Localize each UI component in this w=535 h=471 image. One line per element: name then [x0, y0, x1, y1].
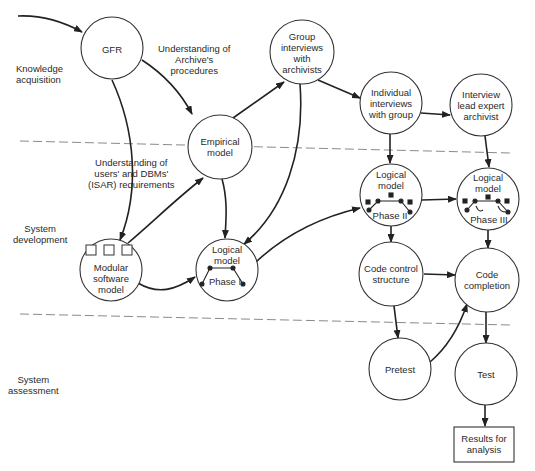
- node-text-group: Group interviews with archivists: [281, 31, 323, 75]
- node-text-phase1-sub: Phase I: [209, 276, 241, 287]
- edge-start-gfr: [18, 16, 82, 32]
- edge-pretest-code-completion: [430, 304, 467, 362]
- separator-development-assessment: [20, 314, 510, 325]
- edge-modular-phase1: [138, 277, 195, 290]
- separator-knowledge-development: [20, 141, 510, 153]
- node-text-empirical: Empirical model: [200, 136, 239, 158]
- edge-empirical-phase1: [222, 179, 226, 238]
- phase-label-assessment: System assessment: [8, 374, 59, 396]
- edge-phase2-phase3: [422, 199, 456, 200]
- node-text-lead: Interview lead expert archivist: [457, 89, 504, 122]
- node-text-phase3: Logical model: [473, 172, 503, 194]
- edge-lead-phase3: [485, 136, 489, 167]
- node-text-test: Test: [477, 369, 494, 380]
- node-text-results: Results for analysis: [461, 433, 506, 455]
- module-squares-icon: [86, 245, 132, 255]
- edge-label-users: Understanding of users' and DBMs' (ISAR)…: [88, 157, 175, 190]
- node-text-gfr: GFR: [102, 44, 122, 55]
- phase-label-development: System development: [13, 223, 67, 245]
- node-text-phase2: Logical model: [376, 169, 406, 191]
- workflow-diagram: [0, 0, 535, 471]
- node-text-phase1: Logical model: [212, 244, 242, 266]
- edge-individual-lead: [421, 113, 450, 115]
- node-text-phase2-sub: Phase II: [373, 210, 408, 221]
- edge-code-control-code-completion: [424, 274, 455, 275]
- node-text-phase3-sub: Phase III: [470, 214, 508, 225]
- node-text-individual: Individual interviews with group: [369, 87, 413, 120]
- edge-phase1-phase2: [256, 208, 360, 262]
- phase-label-knowledge: Knowledge acquisition: [16, 63, 63, 85]
- node-text-code-completion: Code completion: [464, 269, 510, 291]
- edge-group-individual: [318, 80, 360, 98]
- node-text-pretest: Pretest: [385, 364, 415, 375]
- edge-group-phase1: [244, 84, 301, 244]
- edge-label-archive: Understanding of Archive's procedures: [158, 43, 230, 76]
- node-text-code-control: Code control structure: [364, 263, 418, 285]
- edge-empirical-group: [233, 82, 284, 118]
- node-text-modular: Modular software model: [93, 262, 129, 295]
